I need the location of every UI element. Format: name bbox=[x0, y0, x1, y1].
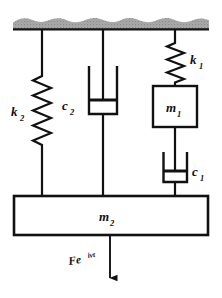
mass-m2-block bbox=[14, 196, 208, 235]
damper-c2-subscript: 2 bbox=[69, 107, 75, 117]
k1-coil bbox=[167, 40, 184, 86]
vibration-system-diagram: k 2 c 2 k 1 m 1 c 1 bbox=[0, 0, 222, 298]
mass-m2-subscript: 2 bbox=[109, 218, 115, 228]
spring-k1-subscript: 1 bbox=[199, 61, 203, 71]
spring-k1-label: k bbox=[190, 52, 197, 67]
damper-c1-label: c bbox=[192, 164, 198, 179]
spring-k2-label: k bbox=[11, 104, 18, 119]
mass-m1-label: m bbox=[166, 100, 176, 115]
damper-c2-group bbox=[89, 30, 117, 197]
damper-c2-label: c bbox=[62, 98, 68, 113]
mass-m1-subscript: 1 bbox=[177, 109, 181, 119]
k2-coil bbox=[33, 72, 51, 196]
spring-k2-subscript: 2 bbox=[19, 113, 25, 123]
force-label-exponent: iνt bbox=[87, 250, 97, 260]
spring-k1-group bbox=[167, 30, 184, 87]
damper-c1-subscript: 1 bbox=[200, 173, 204, 183]
ceiling-support bbox=[13, 18, 209, 29]
mass-m2-label: m bbox=[99, 209, 109, 224]
schematic-canvas: k 2 c 2 k 1 m 1 c 1 bbox=[0, 0, 222, 298]
force-label-base: Fe bbox=[66, 253, 81, 267]
damper-c1-group bbox=[164, 127, 188, 196]
spring-k2-group bbox=[33, 30, 51, 197]
ceiling-hatch-fill bbox=[13, 18, 209, 29]
m2-rect bbox=[14, 196, 208, 235]
